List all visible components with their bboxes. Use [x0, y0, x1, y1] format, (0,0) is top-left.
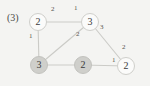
graph-node-d[interactable]: 2: [74, 56, 92, 74]
edge-weight-label: 1: [74, 5, 78, 12]
graph-node-label: 2: [81, 60, 86, 70]
graph-node-label: 2: [36, 17, 41, 27]
graph-node-b[interactable]: 3: [81, 13, 99, 31]
graph-node-a[interactable]: 2: [29, 13, 47, 31]
edge-weight-label: 2: [51, 6, 55, 13]
step-label: (3): [7, 13, 19, 23]
edge-weight-label: 1: [29, 33, 33, 40]
edge-weight-label: 3: [100, 24, 104, 31]
graph-node-label: 3: [88, 17, 93, 27]
edge-weight-label: 2: [76, 31, 80, 38]
graph-node-label: 3: [37, 60, 42, 70]
edge-weight-label: 1: [112, 57, 116, 64]
graph-figure: 23322 2112321 (3): [0, 0, 150, 86]
graph-node-c[interactable]: 3: [30, 56, 48, 74]
edge-weight-label: 2: [122, 44, 126, 51]
graph-node-label: 2: [124, 61, 129, 71]
graph-node-e[interactable]: 2: [117, 57, 135, 75]
